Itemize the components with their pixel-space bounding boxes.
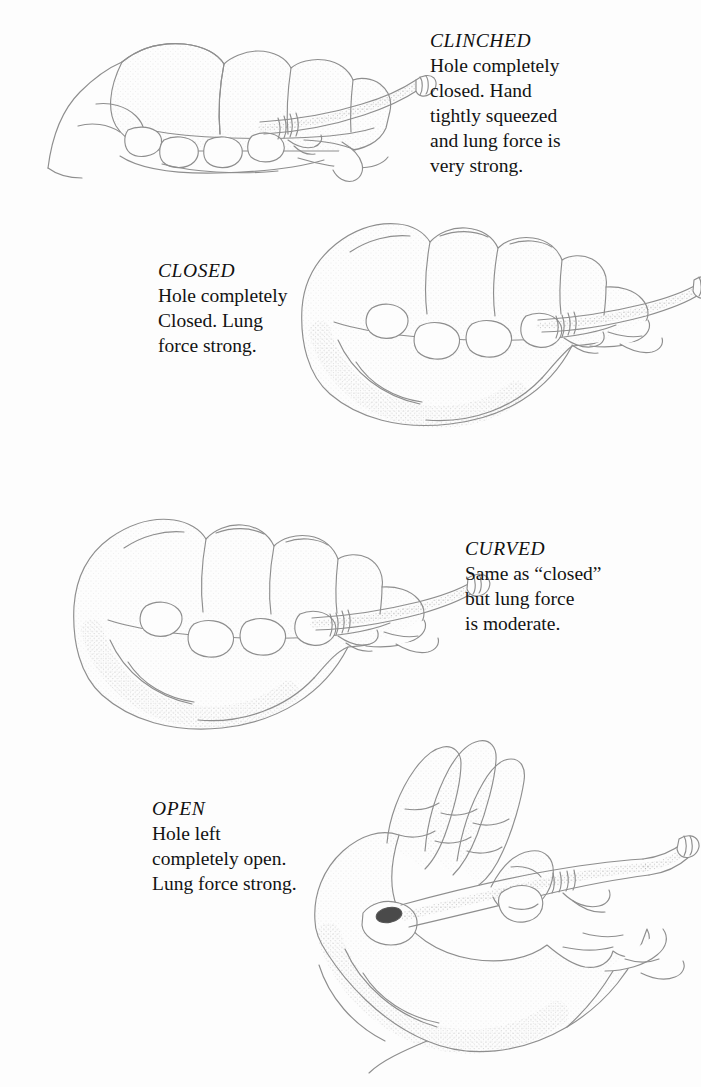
illustration-page: CLINCHED Hole completely closed. Hand ti… [0,0,701,1087]
caption-open: OPEN Hole left completely open. Lung for… [152,796,297,896]
caption-line: Hole completely [430,53,561,78]
closed-fist-grip-illustration [290,212,695,432]
caption-clinched: CLINCHED Hole completely closed. Hand ti… [430,28,561,178]
caption-line: and lung force is [430,128,561,153]
caption-title-curved: CURVED [465,536,601,561]
caption-line: Lung force strong. [152,871,297,896]
caption-line: closed. Hand [430,78,561,103]
caption-line: Same as “closed” [465,561,601,586]
curved-hand-grip-illustration [60,500,465,735]
caption-line: but lung force [465,586,601,611]
caption-title-clinched: CLINCHED [430,28,561,53]
caption-line: is moderate. [465,611,601,636]
caption-title-closed: CLOSED [158,258,287,283]
caption-line: completely open. [152,846,297,871]
caption-closed: CLOSED Hole completely Closed. Lung forc… [158,258,287,358]
caption-line: force strong. [158,333,287,358]
caption-line: Closed. Lung [158,308,287,333]
caption-line: Hole completely [158,283,287,308]
clinched-fist-grip-illustration [42,18,432,208]
open-hand-grip-illustration [305,735,700,1065]
caption-title-open: OPEN [152,796,297,821]
caption-line: very strong. [430,153,561,178]
caption-line: tightly squeezed [430,103,561,128]
caption-line: Hole left [152,821,297,846]
caption-curved: CURVED Same as “closed” but lung force i… [465,536,601,636]
